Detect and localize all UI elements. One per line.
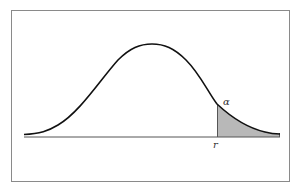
alpha-label: α [223, 97, 230, 107]
cutoff-label: r [213, 140, 218, 150]
bell-curve [24, 44, 280, 135]
distribution-plot [0, 0, 299, 192]
tail-area [217, 104, 280, 137]
